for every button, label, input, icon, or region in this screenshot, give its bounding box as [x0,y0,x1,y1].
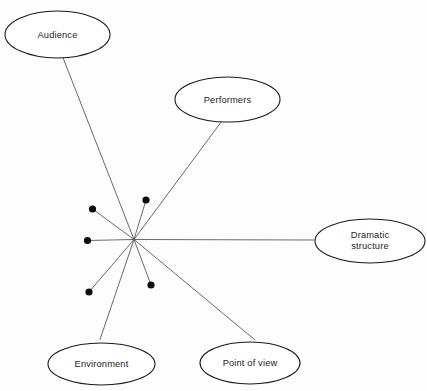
stub-dot-lower-left[interactable] [85,288,92,295]
node-ellipse-environment[interactable] [48,343,155,385]
spoke-line-dramatic-structure [134,240,314,241]
node-ellipse-audience[interactable] [5,11,110,58]
spoke-line-environment [100,240,134,340]
stub-dot-upper-left[interactable] [89,205,96,212]
spoke-line-performers [134,120,223,240]
node-ellipse-dramatic-structure[interactable] [315,219,425,263]
node-ellipses-group [5,11,425,385]
stub-dots-group [84,196,155,295]
stub-line-left [88,240,135,241]
stub-line-lower-left [89,240,134,293]
spoke-line-point-of-view [134,240,255,341]
stub-dot-lower-right[interactable] [147,281,154,288]
node-ellipse-performers[interactable] [175,77,280,122]
stub-dot-upper-right[interactable] [142,196,149,203]
node-ellipse-point-of-view[interactable] [200,342,300,384]
spoke-line-audience [61,53,134,240]
stub-dot-left[interactable] [84,237,91,244]
diagram-svg [0,0,427,391]
radial-diagram-canvas: Audience Performers Dramatic structure P… [0,0,427,391]
stub-line-upper-right [134,200,146,240]
